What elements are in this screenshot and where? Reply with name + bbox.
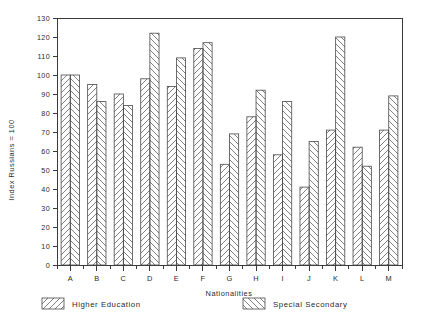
x-tick-label: H [253, 274, 259, 283]
bar-C-higher-education [114, 94, 123, 265]
legend-label-special-secondary: Special Secondary [273, 300, 347, 309]
legend-swatch-higher-education [42, 298, 64, 309]
x-tick-label: I [281, 274, 283, 283]
bars-layer [61, 33, 398, 265]
y-tick-label: 100 [37, 71, 50, 80]
legend-swatch-special-secondary [243, 298, 265, 309]
bar-J-higher-education [300, 187, 309, 265]
bar-K-higher-education [327, 130, 336, 265]
bar-D-special-secondary [150, 33, 159, 265]
x-tick-label: G [226, 274, 232, 283]
x-tick-label: E [174, 274, 179, 283]
x-tick-label: A [68, 274, 73, 283]
x-tick-label: L [360, 274, 364, 283]
y-tick-label: 40 [41, 185, 50, 194]
y-tick-label: 0 [46, 261, 50, 270]
bar-H-higher-education [247, 117, 256, 265]
y-tick-label: 20 [41, 223, 50, 232]
y-axis: 0102030405060708090100110120130 [37, 14, 57, 270]
y-tick-label: 10 [41, 242, 50, 251]
bar-D-higher-education [141, 79, 150, 265]
y-tick-label: 120 [37, 33, 50, 42]
bar-C-special-secondary [123, 105, 132, 265]
x-axis-title: Nationalities [206, 289, 253, 298]
x-axis: ABCDEFGHIJKLM [57, 265, 402, 283]
x-tick-label: F [201, 274, 206, 283]
bar-G-special-secondary [230, 134, 239, 265]
y-tick-label: 110 [37, 52, 50, 61]
bar-I-higher-education [273, 155, 282, 265]
bar-I-special-secondary [283, 102, 292, 265]
bar-E-special-secondary [176, 58, 185, 265]
bar-chart-figure: 0102030405060708090100110120130 ABCDEFGH… [0, 0, 433, 320]
y-tick-label: 60 [41, 147, 50, 156]
x-tick-label: M [385, 274, 391, 283]
x-tick-label: D [147, 274, 153, 283]
y-tick-label: 50 [41, 166, 50, 175]
x-tick-label: J [307, 274, 311, 283]
bar-E-higher-education [167, 86, 176, 265]
y-tick-label: 30 [41, 204, 50, 213]
bar-M-higher-education [380, 130, 389, 265]
y-tick-label: 130 [37, 14, 50, 23]
bar-H-special-secondary [256, 90, 265, 265]
x-tick-label: B [94, 274, 99, 283]
y-axis-title: Index Russians = 100 [7, 119, 16, 200]
y-tick-label: 80 [41, 109, 50, 118]
bar-A-special-secondary [70, 75, 79, 265]
y-tick-label: 90 [41, 90, 50, 99]
bar-B-higher-education [88, 85, 97, 266]
bar-A-higher-education [61, 75, 70, 265]
x-tick-label: K [333, 274, 338, 283]
bar-J-special-secondary [309, 142, 318, 266]
legend: Higher Education Special Secondary [42, 298, 347, 309]
bar-L-higher-education [353, 147, 362, 265]
bar-M-special-secondary [389, 96, 398, 265]
bar-F-higher-education [194, 48, 203, 265]
y-tick-label: 70 [41, 128, 50, 137]
bar-B-special-secondary [97, 102, 106, 265]
bar-F-special-secondary [203, 43, 212, 265]
bar-K-special-secondary [336, 37, 345, 265]
x-tick-label: C [121, 274, 127, 283]
chart-container: 0102030405060708090100110120130 ABCDEFGH… [0, 0, 433, 320]
bar-L-special-secondary [362, 166, 371, 265]
bar-G-higher-education [220, 164, 229, 265]
legend-label-higher-education: Higher Education [72, 300, 141, 309]
